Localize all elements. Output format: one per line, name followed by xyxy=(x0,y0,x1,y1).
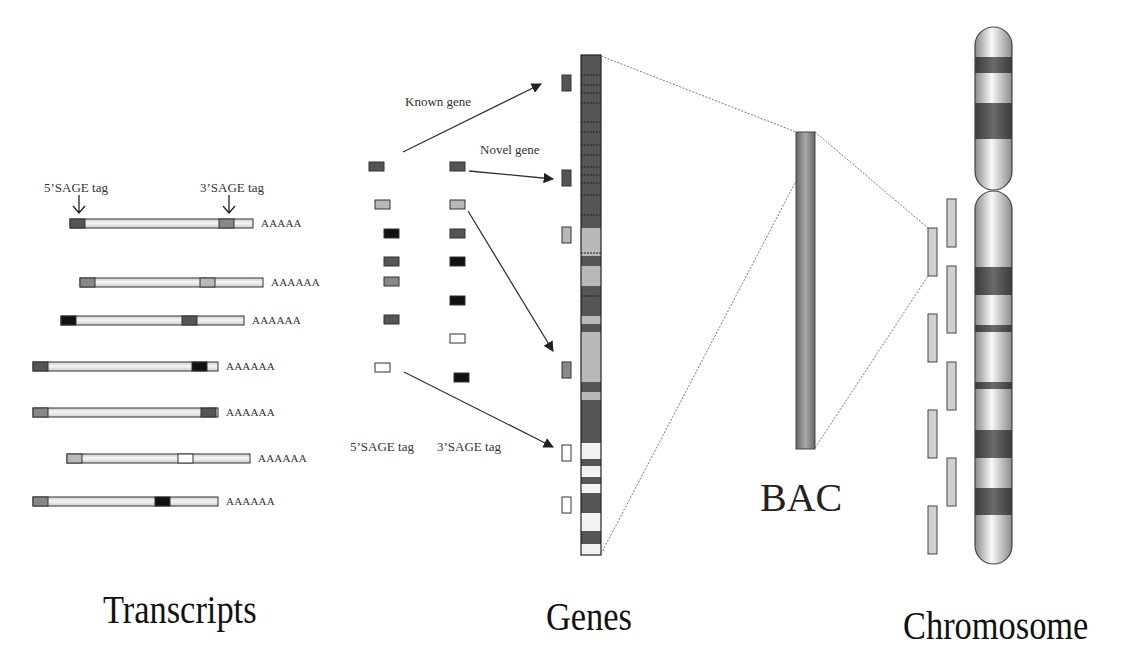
polya-tail-label: AAAAAA xyxy=(252,315,301,326)
gene-band xyxy=(581,493,601,513)
transcripts-title: Transcripts xyxy=(103,590,257,630)
five-prime-tag xyxy=(33,497,48,506)
three-sage-column-label: 3’SAGE tag xyxy=(437,440,501,453)
transcript xyxy=(33,497,218,506)
gene-band xyxy=(581,484,601,493)
chromosome-band xyxy=(975,430,1012,458)
transcript-body xyxy=(33,362,218,371)
bac-tile xyxy=(928,506,937,554)
polya-tail-label: AAAAA xyxy=(261,218,302,229)
genes-title: Genes xyxy=(546,597,632,637)
transcript xyxy=(80,278,263,287)
transcript xyxy=(67,454,250,463)
bac-tile xyxy=(928,228,937,276)
three-prime-tag xyxy=(219,219,234,228)
five-sage-tag xyxy=(384,257,399,266)
transcript xyxy=(70,219,253,228)
three-prime-tag xyxy=(182,316,197,325)
novel-gene-arrow xyxy=(469,171,553,179)
three-sage-tag xyxy=(450,257,465,266)
polya-tail-label: AAAAAA xyxy=(271,277,320,288)
transcript-body xyxy=(33,408,218,417)
five-sage-tag xyxy=(369,162,384,171)
down-arrow-icon xyxy=(73,195,85,213)
bac-tile xyxy=(947,362,956,410)
three-prime-tag xyxy=(192,362,207,371)
bac-clones-group xyxy=(928,199,956,554)
chromosome-group xyxy=(975,27,1012,564)
five-sage-tag xyxy=(384,315,399,324)
five-sage-column-label: 5’SAGE tag xyxy=(350,440,414,453)
gene-marker xyxy=(562,362,571,378)
polya-tail-label: AAAAAA xyxy=(226,407,275,418)
gene-band xyxy=(581,400,601,443)
five-sage-tag xyxy=(384,277,399,286)
five-sage-tag xyxy=(375,200,390,209)
gene-band xyxy=(581,324,601,332)
five-prime-tag xyxy=(33,362,48,371)
three-prime-tag xyxy=(201,408,216,417)
gene-band xyxy=(581,459,601,466)
chromosome-band xyxy=(975,325,1012,332)
three-prime-tag xyxy=(155,497,170,506)
chromosome-band xyxy=(975,267,1012,295)
three-prime-tag xyxy=(200,278,215,287)
bac-group xyxy=(796,132,815,449)
chromosome-title: Chromosome xyxy=(903,606,1088,646)
sage-tags-group xyxy=(369,162,469,382)
three-sage-tag xyxy=(450,162,465,171)
five-prime-tag xyxy=(80,278,95,287)
gene-band xyxy=(581,286,601,316)
gene-band xyxy=(581,228,601,256)
gene-band xyxy=(581,266,601,286)
gene-marker xyxy=(562,497,571,513)
transcript xyxy=(33,362,218,371)
chromosome-band xyxy=(975,488,1012,515)
bac-tile xyxy=(928,314,937,362)
novel-gene-label: Novel gene xyxy=(480,143,540,156)
gene-band xyxy=(581,382,601,392)
three-sage-tag xyxy=(450,296,465,305)
three-sage-tag xyxy=(450,229,465,238)
tag-pointer-arrows xyxy=(73,195,235,213)
gene-marker xyxy=(562,75,571,91)
gene-band xyxy=(581,332,601,382)
gene-band xyxy=(581,55,601,228)
gene-band xyxy=(581,466,601,477)
five-sage-tag xyxy=(384,229,399,238)
gene-band xyxy=(581,256,601,266)
gene-band xyxy=(581,513,601,531)
five-sage-tag xyxy=(375,363,390,372)
gene-band xyxy=(581,544,601,555)
known-gene-label: Known gene xyxy=(405,95,471,108)
transcript xyxy=(33,408,218,417)
bac-tile xyxy=(928,410,937,458)
five-sage-tag-label: 5’SAGE tag xyxy=(44,181,108,194)
polya-tail-label: AAAAAA xyxy=(258,453,307,464)
down-arrow-icon xyxy=(223,195,235,213)
transcript-body xyxy=(80,278,263,287)
transcript-body xyxy=(61,316,244,325)
gene-marker xyxy=(562,445,571,461)
five-prime-tag xyxy=(61,316,76,325)
chromosome-band xyxy=(975,57,1012,73)
transcript-body xyxy=(67,454,250,463)
bac-label: BAC xyxy=(760,478,842,518)
gene-band xyxy=(581,392,601,400)
sage-mapping-diagram xyxy=(0,0,1128,672)
bac-tile xyxy=(947,199,956,247)
gene-marker xyxy=(562,170,571,186)
polya-tail-label: AAAAAA xyxy=(226,361,275,372)
gene-band xyxy=(581,316,601,324)
known-gene-arrow-2 xyxy=(404,372,553,447)
chromosome-body xyxy=(975,27,1012,564)
five-prime-tag xyxy=(33,408,48,417)
chromosome-band xyxy=(975,103,1012,139)
bac-tile xyxy=(947,266,956,333)
gene-band xyxy=(581,531,601,544)
five-prime-tag xyxy=(67,454,82,463)
three-prime-tag xyxy=(178,454,193,463)
three-sage-tag xyxy=(450,200,465,209)
gene-column-group xyxy=(562,55,601,555)
chromosome-band xyxy=(975,382,1012,389)
